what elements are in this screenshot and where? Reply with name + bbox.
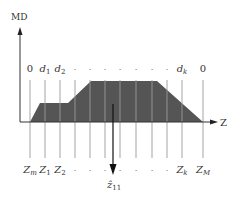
top-label: · bbox=[89, 64, 92, 75]
bottom-label: ZM bbox=[196, 165, 210, 178]
bottom-label: · bbox=[166, 165, 169, 176]
top-label: · bbox=[166, 64, 169, 75]
top-label: d2 bbox=[55, 64, 66, 77]
top-label: 0 bbox=[27, 64, 33, 74]
x-axis-label: Z bbox=[220, 117, 227, 128]
bottom-label: Zm bbox=[23, 165, 37, 178]
bottom-label: · bbox=[104, 165, 107, 176]
membership-area bbox=[30, 81, 203, 122]
down-arrow-icon bbox=[110, 164, 117, 175]
top-label: · bbox=[104, 64, 107, 75]
top-label: dk bbox=[177, 64, 188, 77]
membership-diagram: MD Z 0d1d2·······dk0 ZmZ1Z2·······ZkZM ẑ… bbox=[0, 0, 239, 201]
y-axis-label: MD bbox=[11, 12, 27, 22]
y-axis-arrow-icon bbox=[18, 27, 23, 35]
bottom-label: Z1 bbox=[39, 165, 50, 178]
top-label: · bbox=[135, 64, 138, 75]
top-label: · bbox=[151, 64, 154, 75]
bottom-label: · bbox=[74, 165, 77, 176]
top-label: · bbox=[119, 64, 122, 75]
top-label: 0 bbox=[200, 64, 206, 74]
bottom-label: Z2 bbox=[54, 165, 65, 178]
bottom-label: · bbox=[119, 165, 122, 176]
x-axis-arrow-icon bbox=[210, 120, 218, 125]
bottom-label: · bbox=[89, 165, 92, 176]
bottom-label: · bbox=[135, 165, 138, 176]
y-axis bbox=[18, 27, 23, 122]
estimate-label: ẑ11 bbox=[107, 180, 121, 193]
bottom-label: Zk bbox=[176, 165, 187, 178]
bottom-label: · bbox=[151, 165, 154, 176]
top-label: d1 bbox=[40, 64, 51, 77]
top-label: · bbox=[74, 64, 77, 75]
